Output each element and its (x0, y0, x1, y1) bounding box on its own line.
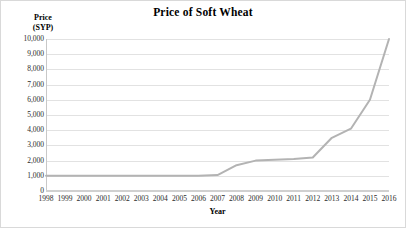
y-axis-tick-label: 3,000 (2, 141, 44, 149)
y-axis-tick-label: 1,000 (2, 172, 44, 180)
y-axis-tick-label: 10,000 (2, 35, 44, 43)
y-axis-tick-label: 2,000 (2, 157, 44, 165)
y-axis-tick-label: 6,000 (2, 96, 44, 104)
plot-area (46, 39, 389, 191)
y-axis-title: Price (SYP) (15, 13, 71, 33)
y-axis-tick-label: 9,000 (2, 50, 44, 58)
y-axis-title-line-2: (SYP) (15, 23, 71, 33)
x-axis-title: Year (46, 207, 389, 216)
series-polyline (46, 39, 389, 176)
x-axis-tick-labels: 1998199920002001200220032004200520062007… (46, 194, 389, 206)
x-axis-tick-label: 2016 (376, 194, 402, 203)
y-axis-tick-label: 4,000 (2, 126, 44, 134)
y-axis-tick-label: 5,000 (2, 111, 44, 119)
y-axis-tick-label: 7,000 (2, 81, 44, 89)
chart-figure: Price of Soft Wheat Price (SYP) 10,0009,… (0, 0, 406, 228)
y-axis-tick-label: 8,000 (2, 65, 44, 73)
data-series-line (46, 39, 389, 191)
gridline (46, 191, 389, 192)
y-axis-title-line-1: Price (15, 13, 71, 23)
y-axis-tick-labels: 10,0009,0008,0007,0006,0005,0004,0003,00… (1, 39, 44, 191)
